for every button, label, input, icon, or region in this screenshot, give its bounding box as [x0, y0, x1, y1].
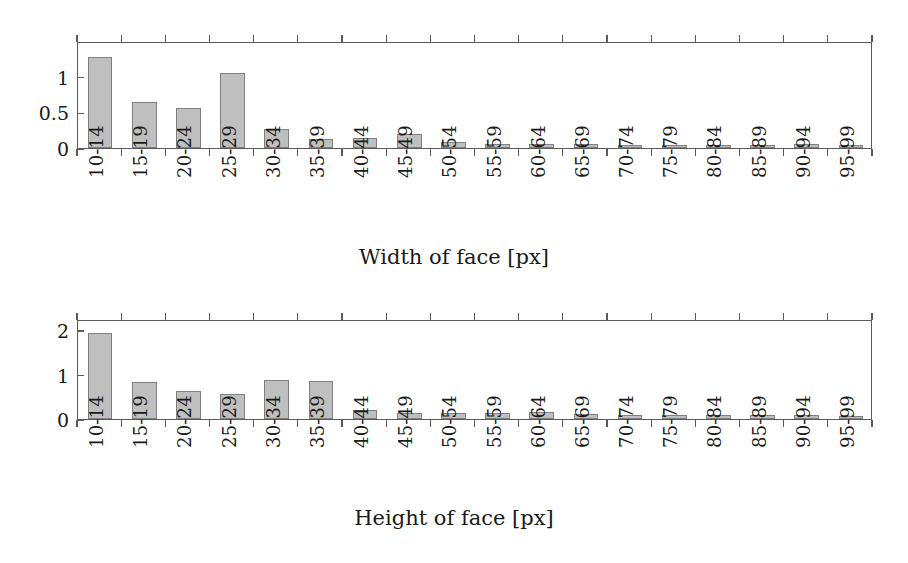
x-tick-mark	[121, 313, 122, 320]
x-tick-mark	[518, 35, 519, 42]
x-tick-label: 15-19	[132, 125, 150, 178]
x-tick-mark	[165, 149, 166, 156]
x-tick-mark	[297, 420, 298, 427]
x-tick-mark	[165, 313, 166, 320]
y-tick-mark	[77, 419, 84, 420]
x-tick-mark	[474, 313, 475, 320]
chart-panel-height-of-face: 012 10-1415-1920-2425-2930-3435-3940-444…	[0, 278, 908, 563]
x-tick-mark	[739, 313, 740, 320]
x-tick-mark	[651, 149, 652, 156]
y-tick-label: 2	[57, 322, 69, 341]
x-tick-mark	[562, 35, 563, 42]
x-tick-label: 35-39	[309, 125, 327, 178]
x-tick-label: 60-64	[530, 395, 548, 448]
x-tick-label: 65-69	[574, 395, 592, 448]
x-tick-mark	[651, 313, 652, 320]
x-tick-mark	[518, 149, 519, 156]
x-tick-label: 90-94	[795, 125, 813, 178]
x-tick-mark	[562, 149, 563, 156]
y-tick-mark	[77, 148, 84, 149]
x-tick-mark	[253, 313, 254, 320]
x-tick-mark	[209, 420, 210, 427]
y-tick-mark	[77, 375, 84, 376]
x-tick-label: 95-99	[839, 125, 857, 178]
x-tick-mark	[297, 149, 298, 156]
x-tick-mark	[562, 313, 563, 320]
x-tick-mark	[871, 35, 872, 42]
x-tick-label: 20-24	[176, 395, 194, 448]
x-tick-label: 35-39	[309, 395, 327, 448]
x-tick-mark	[827, 149, 828, 156]
x-tick-label: 25-29	[221, 395, 239, 448]
x-tick-mark	[297, 313, 298, 320]
x-tick-mark	[606, 313, 607, 320]
x-tick-mark	[651, 420, 652, 427]
x-tick-mark	[695, 313, 696, 320]
y-tick-label: 1	[57, 68, 69, 87]
x-tick-label: 30-34	[265, 125, 283, 178]
x-tick-label: 45-49	[397, 125, 415, 178]
x-tick-label: 75-79	[662, 125, 680, 178]
y-tick-label: 1	[57, 366, 69, 385]
x-tick-label: 55-59	[486, 395, 504, 448]
x-tick-mark	[871, 313, 872, 320]
x-tick-mark	[783, 420, 784, 427]
y-tick-mark	[77, 330, 84, 331]
x-tick-mark	[518, 420, 519, 427]
x-tick-mark	[871, 149, 872, 156]
x-tick-label: 25-29	[221, 125, 239, 178]
x-tick-mark	[253, 149, 254, 156]
x-tick-label: 50-54	[441, 395, 459, 448]
x-tick-mark	[209, 313, 210, 320]
figure-two-histograms: 00.51 10-1415-1920-2425-2930-3435-3940-4…	[0, 0, 908, 563]
x-tick-label: 70-74	[618, 125, 636, 178]
x-tick-mark	[783, 35, 784, 42]
x-tick-mark	[783, 313, 784, 320]
x-tick-mark	[165, 420, 166, 427]
x-tick-mark	[827, 35, 828, 42]
x-tick-label: 80-84	[706, 395, 724, 448]
x-tick-mark	[474, 420, 475, 427]
x-tick-mark	[76, 149, 77, 156]
x-tick-mark	[739, 149, 740, 156]
x-tick-label: 40-44	[353, 395, 371, 448]
x-tick-mark	[695, 149, 696, 156]
x-tick-mark	[783, 149, 784, 156]
x-tick-mark	[253, 420, 254, 427]
x-tick-mark	[695, 420, 696, 427]
x-tick-mark	[386, 149, 387, 156]
x-tick-mark	[474, 35, 475, 42]
x-tick-label: 20-24	[176, 125, 194, 178]
y-tick-label: 0	[57, 411, 69, 430]
x-tick-label: 50-54	[441, 125, 459, 178]
x-tick-label: 70-74	[618, 395, 636, 448]
x-tick-mark	[386, 420, 387, 427]
y-tick-label: 0.5	[39, 104, 69, 123]
x-tick-label: 10-14	[88, 395, 106, 448]
x-tick-mark	[518, 313, 519, 320]
x-tick-mark	[651, 35, 652, 42]
x-tick-label: 85-89	[751, 125, 769, 178]
x-tick-mark	[341, 149, 342, 156]
x-tick-label: 60-64	[530, 125, 548, 178]
x-tick-label: 15-19	[132, 395, 150, 448]
x-tick-label: 30-34	[265, 395, 283, 448]
x-tick-mark	[430, 35, 431, 42]
x-tick-mark	[827, 420, 828, 427]
x-tick-label: 10-14	[88, 125, 106, 178]
x-tick-mark	[209, 35, 210, 42]
x-tick-label: 55-59	[486, 125, 504, 178]
x-tick-mark	[209, 149, 210, 156]
x-tick-mark	[871, 420, 872, 427]
x-tick-mark	[297, 35, 298, 42]
x-axis-title-width-of-face: Width of face [px]	[0, 245, 908, 269]
x-tick-mark	[253, 35, 254, 42]
x-tick-mark	[827, 313, 828, 320]
x-axis-title-height-of-face: Height of face [px]	[0, 506, 908, 530]
x-tick-mark	[76, 35, 77, 42]
x-tick-mark	[606, 35, 607, 42]
x-tick-mark	[739, 35, 740, 42]
x-tick-mark	[606, 420, 607, 427]
x-tick-mark	[695, 35, 696, 42]
x-tick-label: 95-99	[839, 395, 857, 448]
